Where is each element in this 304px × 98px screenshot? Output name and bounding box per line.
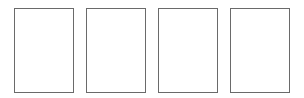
page-thumbnail-1[interactable] (14, 8, 74, 93)
page-thumbnail-4[interactable] (230, 8, 290, 93)
page-thumbnail-2[interactable] (86, 8, 146, 93)
page-thumbnail-3[interactable] (158, 8, 218, 93)
